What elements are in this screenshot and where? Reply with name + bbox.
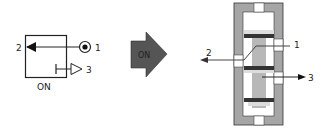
valve-port-2-label: 2 <box>206 48 212 58</box>
on-arrow: ON <box>131 32 167 77</box>
spool-land-mid <box>244 70 274 73</box>
port-2-opening <box>234 55 243 67</box>
bottom-port <box>254 116 264 125</box>
port-1-opening <box>274 39 283 51</box>
symbol-port-2-label: 2 <box>16 43 22 53</box>
port-3-opening <box>274 72 283 84</box>
symbol-box <box>26 36 67 78</box>
symbol-state-label: ON <box>37 82 51 92</box>
spool-land-bottom <box>248 102 270 106</box>
valve-port-1-label: 1 <box>294 40 300 50</box>
valve-port-3-label: 3 <box>308 73 314 83</box>
valve-diagram: 2 1 3 ON ON 2 1 3 <box>0 0 326 128</box>
flow-arrow-icon <box>26 42 36 52</box>
arrow-label: ON <box>138 51 150 60</box>
pressure-port-dot <box>82 44 87 49</box>
top-port <box>254 3 264 12</box>
symbol-port-3-label: 3 <box>86 65 92 75</box>
seal-middle <box>244 66 274 70</box>
flow-arrow-3-icon <box>298 74 306 80</box>
seal-top <box>244 34 274 38</box>
valve-symbol: 2 1 3 ON <box>16 36 101 93</box>
seal-bottom <box>244 98 274 102</box>
symbol-port-1-label: 1 <box>95 43 101 53</box>
valve-cutaway: 2 1 3 <box>200 3 314 125</box>
exhaust-triangle-icon <box>71 64 82 75</box>
